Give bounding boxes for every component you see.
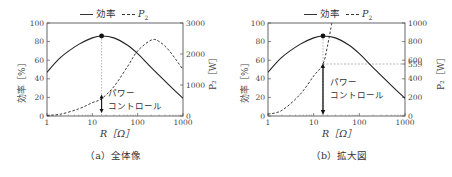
x-axis-label: R［Ω］ (322, 126, 357, 140)
y-right-tick-label: 1000 (186, 81, 205, 90)
y-left-tick-label: 20 (34, 93, 44, 102)
y-axis-label-left: 効率［%］ (238, 58, 251, 103)
y-axis-label-right: P₂［W］ (206, 53, 219, 90)
power-control-annotation: パワー コントロール (108, 87, 162, 113)
legend-solid-swatch (304, 14, 317, 15)
max-efficiency-marker (99, 34, 104, 39)
annotation-line2: コントロール (108, 100, 162, 113)
chart-overview: 11010010000204060801000100020003000 (0, 0, 226, 140)
y-right-tick-label: 0 (408, 112, 413, 121)
legend: 効率 P2 (80, 6, 148, 21)
max-efficiency-marker (321, 34, 326, 39)
annotation-line1: パワー (330, 76, 384, 89)
y-right-tick-label: 600 (408, 56, 423, 65)
panel-overview: 11010010000204060801000100020003000 効率 P… (0, 0, 226, 177)
legend-p2-sub: 2 (369, 14, 373, 21)
legend-p2-sub: 2 (145, 14, 149, 21)
y-right-tick-label: 3000 (186, 19, 205, 28)
y-left-tick-label: 100 (30, 19, 45, 28)
y-left-tick-label: 0 (39, 112, 44, 121)
y-left-tick-label: 60 (255, 56, 265, 65)
y-right-tick-label: 200 (408, 93, 423, 102)
y-left-tick-label: 100 (251, 19, 266, 28)
y-axis-label-right: P₂［W］ (434, 53, 447, 90)
y-left-tick-label: 20 (255, 93, 265, 102)
plot-frame (268, 23, 405, 116)
y-left-tick-label: 40 (34, 74, 44, 83)
annotation-line1: パワー (108, 87, 162, 100)
legend-efficiency: 効率 (96, 8, 116, 19)
x-axis-label: R［Ω］ (100, 126, 135, 140)
y-left-tick-label: 80 (34, 37, 44, 46)
x-tick-label: 10 (309, 118, 319, 127)
panel-zoomed: 1101001000020406080100020040055960080010… (226, 0, 452, 177)
chart-zoomed: 1101001000020406080100020040055960080010… (226, 0, 452, 140)
y-right-tick-label: 0 (186, 112, 191, 121)
annotation-line2: コントロール (330, 89, 384, 102)
y-axis-label-left: 効率［%］ (15, 58, 28, 103)
legend-efficiency: 効率 (320, 8, 340, 19)
caption: （a）全体像 (0, 148, 226, 162)
x-tick-label: 1 (266, 118, 271, 127)
legend-dashed-swatch (346, 14, 359, 15)
x-tick-label: 10 (88, 118, 98, 127)
y-left-tick-label: 80 (255, 37, 265, 46)
legend: 効率 P2 (304, 6, 372, 21)
x-tick-label: 1 (45, 118, 50, 127)
y-right-tick-label: 2000 (186, 50, 205, 59)
power-control-annotation: パワー コントロール (330, 76, 384, 102)
y-left-tick-label: 60 (34, 56, 44, 65)
legend-solid-swatch (80, 14, 93, 15)
legend-dashed-swatch (122, 14, 135, 15)
y-right-tick-label: 1000 (408, 19, 427, 28)
y-left-tick-label: 0 (260, 112, 265, 121)
caption: （b）拡大図 (226, 148, 452, 162)
y-right-tick-label: 800 (408, 37, 423, 46)
y-left-tick-label: 40 (255, 74, 265, 83)
y-right-tick-label: 400 (408, 74, 423, 83)
